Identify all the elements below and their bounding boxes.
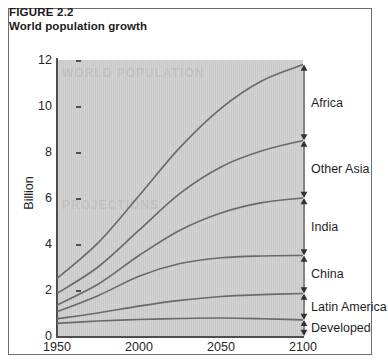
region-label-china: China — [311, 268, 344, 281]
region-label-latin-america: Latin America — [311, 300, 387, 313]
region-label-india: India — [311, 220, 338, 233]
population-growth-chart: WORLD POPULATION PROJECTIONS 024681012 B… — [0, 0, 388, 364]
region-label-developed: Developed — [311, 321, 371, 334]
region-labels: AfricaOther AsiaIndiaChinaLatin AmericaD… — [0, 0, 388, 364]
region-label-other-asia: Other Asia — [311, 163, 369, 176]
region-label-africa: Africa — [311, 96, 343, 109]
